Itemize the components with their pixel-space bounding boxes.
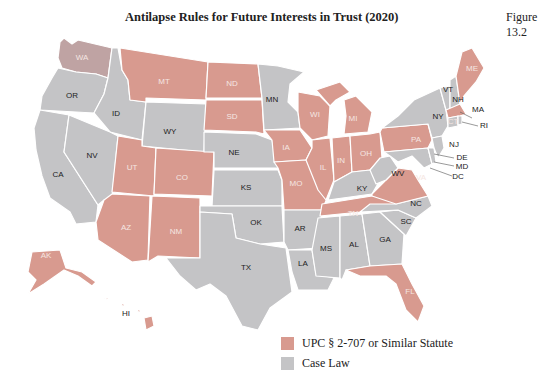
svg-text:WV: WV — [392, 169, 406, 178]
svg-text:MD: MD — [456, 162, 469, 171]
svg-text:FL: FL — [405, 287, 415, 296]
svg-text:VA: VA — [416, 173, 427, 182]
legend-label-upc: UPC § 2-707 or Similar Statute — [302, 336, 453, 351]
svg-text:KY: KY — [357, 184, 368, 193]
svg-text:OR: OR — [66, 91, 78, 100]
svg-text:AK: AK — [41, 251, 52, 260]
svg-text:NV: NV — [86, 151, 98, 160]
svg-text:VT: VT — [443, 85, 453, 94]
svg-text:WI: WI — [310, 110, 320, 119]
svg-text:NY: NY — [432, 112, 444, 121]
state-AK[interactable] — [28, 250, 96, 294]
svg-text:IN: IN — [337, 156, 345, 165]
us-map: WA OR CA ID NV MT WY UT CO AZ NM ND SD N… — [0, 0, 558, 388]
svg-text:CA: CA — [52, 170, 64, 179]
legend-swatch-upc — [281, 337, 294, 350]
svg-text:NH: NH — [452, 95, 464, 104]
svg-text:MO: MO — [290, 179, 303, 188]
svg-text:WY: WY — [164, 127, 178, 136]
svg-text:DE: DE — [456, 153, 467, 162]
svg-text:IL: IL — [320, 163, 327, 172]
svg-text:SC: SC — [400, 217, 411, 226]
svg-text:DC: DC — [452, 172, 464, 181]
state-RI[interactable] — [458, 116, 462, 125]
svg-text:AZ: AZ — [121, 223, 131, 232]
svg-text:HI: HI — [122, 309, 130, 318]
state-MT[interactable] — [120, 48, 208, 102]
svg-text:ND: ND — [226, 79, 238, 88]
svg-text:AR: AR — [294, 224, 305, 233]
svg-text:MS: MS — [320, 244, 332, 253]
svg-text:MN: MN — [266, 95, 279, 104]
svg-text:CO: CO — [176, 173, 188, 182]
svg-text:MT: MT — [158, 77, 170, 86]
svg-text:MI: MI — [349, 114, 358, 123]
state-CO[interactable] — [154, 148, 214, 196]
svg-text:GA: GA — [379, 235, 391, 244]
legend-item-case-law: Case Law — [281, 353, 453, 373]
svg-text:PA: PA — [411, 135, 422, 144]
svg-text:RI: RI — [480, 121, 488, 130]
svg-text:KS: KS — [241, 183, 252, 192]
svg-text:NJ: NJ — [449, 140, 459, 149]
state-NE[interactable] — [204, 132, 278, 168]
svg-text:SD: SD — [226, 112, 237, 121]
svg-text:LA: LA — [298, 259, 308, 268]
legend-item-upc: UPC § 2-707 or Similar Statute — [281, 333, 453, 353]
svg-text:NC: NC — [410, 199, 422, 208]
svg-text:UT: UT — [127, 163, 138, 172]
svg-text:IA: IA — [282, 143, 290, 152]
svg-text:OK: OK — [250, 218, 262, 227]
svg-text:AL: AL — [349, 240, 359, 249]
svg-text:ID: ID — [112, 109, 120, 118]
legend-swatch-case-law — [281, 357, 294, 370]
svg-text:NM: NM — [170, 227, 183, 236]
svg-text:MA: MA — [472, 105, 485, 114]
svg-text:OH: OH — [360, 149, 372, 158]
svg-text:NE: NE — [228, 148, 239, 157]
svg-text:ME: ME — [466, 64, 478, 73]
svg-text:WA: WA — [76, 53, 89, 62]
legend-label-case-law: Case Law — [302, 356, 350, 371]
svg-text:CT: CT — [448, 117, 459, 126]
svg-text:TX: TX — [241, 263, 252, 272]
svg-text:TN: TN — [348, 209, 359, 218]
legend: UPC § 2-707 or Similar Statute Case Law — [281, 333, 453, 373]
